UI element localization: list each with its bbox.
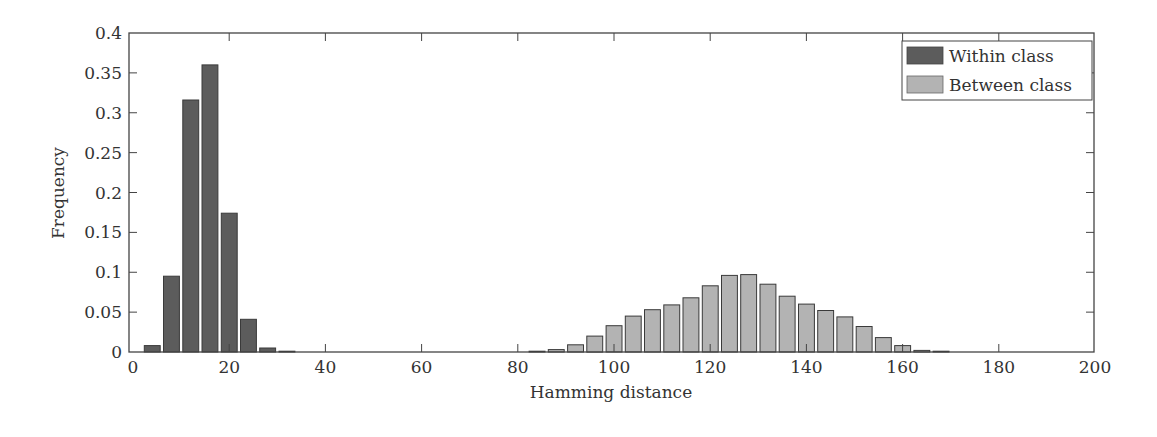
bar-between-class	[722, 275, 738, 352]
y-tick-label: 0.1	[95, 262, 122, 282]
x-tick-label: 100	[598, 357, 630, 377]
y-tick-label: 0.05	[84, 302, 122, 322]
bar-between-class	[664, 305, 680, 352]
y-tick-label: 0.4	[95, 23, 122, 43]
bar-between-class	[625, 316, 641, 352]
bar-within-class	[202, 65, 218, 352]
bar-within-class	[144, 346, 160, 352]
x-tick-label: 160	[886, 357, 918, 377]
x-tick-label: 0	[128, 357, 139, 377]
y-tick-label: 0.3	[95, 103, 122, 123]
legend-label-between-class: Between class	[949, 75, 1072, 95]
x-tick-label: 60	[411, 357, 433, 377]
y-tick-label: 0.2	[95, 183, 122, 203]
bar-between-class	[875, 338, 891, 352]
y-tick-label: 0.35	[84, 63, 122, 83]
bar-between-class	[856, 327, 872, 353]
bar-within-class	[221, 213, 237, 352]
bars-layer	[144, 65, 949, 352]
bar-between-class	[702, 286, 718, 352]
x-tick-label: 140	[790, 357, 822, 377]
bar-between-class	[568, 345, 584, 352]
bar-between-class	[683, 298, 699, 352]
bar-between-class	[741, 275, 757, 352]
legend-label-within-class: Within class	[949, 46, 1054, 66]
y-axis-title: Frequency	[48, 147, 68, 239]
x-tick-label: 120	[694, 357, 726, 377]
histogram-chart: 020406080100120140160180200 00.050.10.15…	[0, 0, 1157, 437]
bar-between-class	[818, 311, 834, 353]
bar-within-class	[183, 100, 199, 352]
bar-between-class	[837, 317, 853, 352]
legend: Within class Between class	[902, 41, 1092, 100]
x-tick-label: 200	[1079, 357, 1111, 377]
bar-between-class	[587, 336, 603, 352]
x-tick-label: 80	[507, 357, 529, 377]
bar-between-class	[779, 296, 795, 352]
x-tick-label: 20	[218, 357, 240, 377]
x-tick-label: 180	[983, 357, 1015, 377]
legend-swatch-between-class	[907, 76, 943, 93]
x-axis-title: Hamming distance	[530, 382, 692, 402]
bar-between-class	[645, 310, 661, 352]
legend-swatch-within-class	[907, 47, 943, 64]
y-tick-label: 0.15	[84, 222, 122, 242]
bar-within-class	[241, 319, 257, 352]
y-tick-label: 0	[111, 342, 122, 362]
bar-between-class	[760, 284, 776, 352]
x-tick-label: 40	[315, 357, 337, 377]
bar-within-class	[164, 276, 180, 352]
y-tick-label: 0.25	[84, 143, 122, 163]
